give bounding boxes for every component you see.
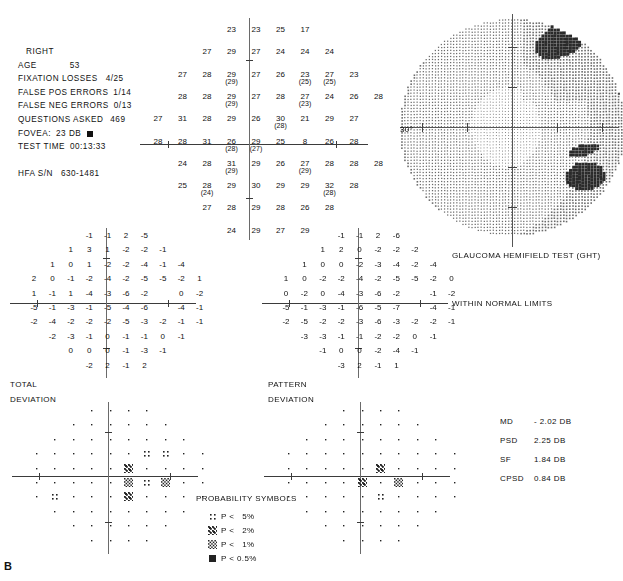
grid-value: 28 xyxy=(149,138,167,146)
prob-dot xyxy=(106,464,115,473)
grid-value: 0 xyxy=(43,275,61,283)
grid-value: -2 xyxy=(369,275,387,283)
grid-value: -1 xyxy=(135,333,153,341)
grid-value: 2 xyxy=(135,362,153,370)
grid-value: 1 xyxy=(62,290,80,298)
grid-value: -1 xyxy=(117,333,135,341)
grid-value: 1 xyxy=(99,246,117,254)
prob-dot xyxy=(302,478,311,487)
grid-value: -1 xyxy=(80,232,98,240)
prob-dot xyxy=(302,449,311,458)
prob-dot xyxy=(124,521,133,530)
prob-dot xyxy=(87,420,96,429)
header-label: FOVEA: xyxy=(18,127,51,141)
grid-value: -1 xyxy=(443,318,461,326)
header-row-age: AGE53 xyxy=(18,59,132,73)
header-value: 469 xyxy=(110,113,125,127)
prob-dot xyxy=(87,521,96,530)
pattern-deviation-label-line1: PATTERN xyxy=(268,381,307,389)
grid-value: -2 xyxy=(43,333,61,341)
probability-legend-item-p1: P < 1% xyxy=(208,538,297,552)
grid-value: 28 xyxy=(174,138,192,146)
grid-value: -1 xyxy=(314,347,332,355)
grid-value: 0 xyxy=(351,246,369,254)
grid-value: 28 xyxy=(321,160,339,168)
axis-tick-v-1 xyxy=(246,198,253,199)
prob-dot xyxy=(142,536,151,545)
grid-value: -5 xyxy=(154,275,172,283)
prob-dot xyxy=(87,492,96,501)
index-value: - 2.02 DB xyxy=(534,418,571,426)
prob-dot xyxy=(413,449,422,458)
grid-value: -2 xyxy=(117,246,135,254)
grid-value: -1 xyxy=(424,333,442,341)
grid-value: 28 xyxy=(198,93,216,101)
grid-value: 25 xyxy=(272,138,290,146)
prob-dot xyxy=(431,435,440,444)
grid-value: 27 xyxy=(198,204,216,212)
grid-value: -5 xyxy=(99,304,117,312)
prob-dot xyxy=(339,521,348,530)
grid-retest-value: (28) xyxy=(271,122,291,129)
grid-value: -1 xyxy=(351,333,369,341)
grid-value: 0 xyxy=(314,290,332,298)
grid-value: -1 xyxy=(369,362,387,370)
grid-value: -2 xyxy=(135,246,153,254)
grid-value: -2 xyxy=(80,362,98,370)
grid-value: 0 xyxy=(406,333,424,341)
probability-legend-item-p05: P < 0.5% xyxy=(208,552,297,566)
grid-value: -2 xyxy=(424,275,442,283)
header-value: 23 DB xyxy=(56,127,81,141)
grid-value: 0 xyxy=(295,275,313,283)
eye-label: RIGHT xyxy=(26,45,132,59)
grid-value: 8 xyxy=(296,138,314,146)
grid-value: 0 xyxy=(80,347,98,355)
grid-value: -3 xyxy=(295,333,313,341)
grid-value: 28 xyxy=(321,204,339,212)
grid-value: -1 xyxy=(332,333,350,341)
prob-dot xyxy=(394,435,403,444)
grid-value: 29 xyxy=(223,48,241,56)
header-label: FIXATION LOSSES xyxy=(18,72,98,86)
prob-dot xyxy=(376,449,385,458)
prob-dot xyxy=(321,478,330,487)
grid-value: -2 xyxy=(117,261,135,269)
prob-dot xyxy=(142,492,151,501)
prob-dot xyxy=(124,420,133,429)
prob-dot xyxy=(87,507,96,516)
grid-value: 29 xyxy=(247,204,265,212)
header-value: 630-1481 xyxy=(61,167,100,181)
index-value: 0.84 DB xyxy=(534,475,566,483)
grid-value: 1 xyxy=(191,275,209,283)
grid-value: -1 xyxy=(80,304,98,312)
grid-value: 29 xyxy=(223,182,241,190)
grid-value: -1 xyxy=(43,304,61,312)
prob-dot xyxy=(450,478,459,487)
grid-value: 1 xyxy=(62,246,80,254)
grid-value: -2 xyxy=(387,246,405,254)
grid-value: -1 xyxy=(154,347,172,355)
grid-value: 26 xyxy=(321,138,339,146)
prob-dot xyxy=(32,478,41,487)
grid-value: 28 xyxy=(370,160,388,168)
prob-dot xyxy=(413,420,422,429)
grid-retest-value: (27) xyxy=(246,145,266,152)
grid-value: 26 xyxy=(296,204,314,212)
grid-retest-value: (24) xyxy=(197,189,217,196)
index-name: SF xyxy=(500,456,511,464)
header-row-false-pos-errors: FALSE POS ERRORS1/14 xyxy=(18,86,132,100)
grid-value: 28 xyxy=(370,93,388,101)
prob-dot xyxy=(161,420,170,429)
grid-value: 23 xyxy=(247,26,265,34)
prob-dot xyxy=(431,449,440,458)
prob-dot xyxy=(198,464,207,473)
grid-value: -4 xyxy=(172,261,190,269)
prob-dot xyxy=(450,449,459,458)
prob-dot xyxy=(69,507,78,516)
header-value: 4/25 xyxy=(106,72,124,86)
prob-dot xyxy=(394,420,403,429)
grid-value: 28 xyxy=(272,204,290,212)
total-deviation-label-line1: TOTAL xyxy=(10,381,37,389)
axis-tick-h-1 xyxy=(170,473,171,480)
grid-value: -1 xyxy=(99,232,117,240)
